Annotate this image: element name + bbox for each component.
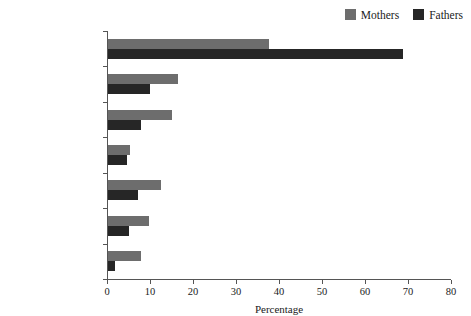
bar-mothers — [108, 145, 130, 155]
x-tick-label: 20 — [188, 286, 199, 298]
bar-mothers — [108, 39, 269, 49]
x-tick — [236, 280, 237, 284]
x-tick-label: 40 — [274, 286, 285, 298]
chart-legend: Mothers Fathers — [345, 8, 463, 21]
y-tick — [103, 279, 107, 280]
legend-entry-mothers: Mothers — [345, 9, 399, 21]
bar-mothers — [108, 74, 178, 84]
y-tick — [103, 137, 107, 138]
x-tick — [150, 280, 151, 284]
legend-swatch-fathers — [413, 9, 424, 20]
bar-fathers — [108, 84, 150, 94]
x-tick — [365, 280, 366, 284]
x-tick-label: 10 — [145, 286, 156, 298]
legend-swatch-mothers — [345, 9, 356, 20]
x-tick-label: 70 — [403, 286, 414, 298]
x-tick-label: 80 — [446, 286, 457, 298]
x-tick — [322, 280, 323, 284]
bar-fathers — [108, 226, 129, 236]
x-tick-label: 60 — [360, 286, 371, 298]
bar-fathers — [108, 120, 141, 130]
bar-mothers — [108, 216, 149, 226]
plot-area: 01020304050607080 NeverOnce or twice a y… — [107, 31, 451, 279]
x-tick-label: 0 — [104, 286, 109, 298]
y-tick — [103, 66, 107, 67]
y-tick — [103, 244, 107, 245]
x-tick — [193, 280, 194, 284]
x-tick — [107, 280, 108, 284]
bar-mothers — [108, 180, 161, 190]
bar-fathers — [108, 155, 127, 165]
legend-entry-fathers: Fathers — [413, 9, 463, 21]
x-axis-title: Percentage — [107, 303, 451, 316]
bar-mothers — [108, 251, 141, 261]
x-tick — [408, 280, 409, 284]
y-tick — [103, 31, 107, 32]
x-tick-label: 50 — [317, 286, 328, 298]
x-tick — [451, 280, 452, 284]
y-tick — [103, 102, 107, 103]
bar-fathers — [108, 190, 138, 200]
bar-fathers — [108, 261, 115, 271]
bar-mothers — [108, 110, 172, 120]
legend-label-mothers: Mothers — [361, 9, 399, 21]
y-tick — [103, 173, 107, 174]
x-tick — [279, 280, 280, 284]
x-tick-label: 30 — [231, 286, 242, 298]
bar-fathers — [108, 49, 403, 59]
y-tick — [103, 208, 107, 209]
legend-label-fathers: Fathers — [429, 9, 463, 21]
